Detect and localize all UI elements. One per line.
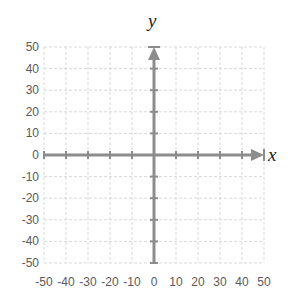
x-tick-labels: -50-40-30-20-1001020304050: [35, 275, 271, 289]
x-tick-label: -30: [79, 275, 97, 289]
x-axis-arrow-icon: [251, 149, 264, 161]
y-tick-label: -40: [22, 234, 40, 248]
y-tick-label: -30: [22, 213, 40, 227]
y-tick-label: -50: [22, 256, 40, 270]
y-tick-label: -10: [22, 170, 40, 184]
y-tick-label: 0: [32, 148, 39, 162]
x-tick-label: 30: [213, 275, 227, 289]
y-tick-label: 20: [26, 105, 40, 119]
x-tick-label: 10: [169, 275, 183, 289]
x-tick-label: -20: [101, 275, 119, 289]
y-tick-labels: 50403020100-10-20-30-40-50: [22, 40, 40, 270]
x-tick-label: 20: [191, 275, 205, 289]
x-tick-label: -10: [123, 275, 141, 289]
y-tick-label: 50: [26, 40, 40, 54]
x-tick-label: -50: [35, 275, 53, 289]
y-tick-label: 10: [26, 126, 40, 140]
x-tick-label: -40: [57, 275, 75, 289]
x-tick-label: 40: [235, 275, 249, 289]
y-tick-label: -20: [22, 191, 40, 205]
x-tick-label: 50: [257, 275, 271, 289]
y-tick-label: 30: [26, 83, 40, 97]
coordinate-plane: 50403020100-10-20-30-40-50 -50-40-30-20-…: [0, 0, 292, 302]
y-axis-label: y: [146, 10, 157, 31]
x-tick-label: 0: [151, 275, 158, 289]
x-axis-label: x: [267, 144, 277, 165]
y-tick-label: 40: [26, 62, 40, 76]
axes: [44, 47, 264, 263]
y-axis-arrow-icon: [148, 47, 160, 60]
